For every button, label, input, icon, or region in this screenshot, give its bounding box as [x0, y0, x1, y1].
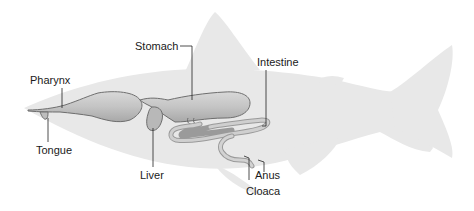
label-stomach: Stomach	[135, 40, 178, 52]
label-anus: Anus	[255, 169, 280, 181]
label-liver: Liver	[140, 169, 164, 181]
label-cloaca: Cloaca	[246, 185, 280, 197]
fish-digestive-diagram: Stomach Pharynx Intestine Tongue Liver A…	[0, 0, 474, 211]
diagram-artwork	[0, 0, 474, 211]
label-intestine: Intestine	[257, 56, 299, 68]
label-pharynx: Pharynx	[30, 74, 70, 86]
tongue	[40, 112, 48, 119]
label-tongue: Tongue	[36, 144, 72, 156]
